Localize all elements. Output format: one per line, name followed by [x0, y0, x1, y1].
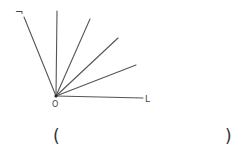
ray-4 — [56, 38, 118, 96]
answer-open-paren: ( — [53, 128, 60, 145]
answer-close-paren: ) — [225, 128, 232, 145]
angle-rays-diagram: ¬ L O — [0, 0, 244, 157]
vertex-label: O — [52, 100, 58, 109]
ray-1 — [24, 17, 56, 96]
vertex-point — [54, 94, 57, 97]
right-ray-label: L — [145, 94, 150, 104]
left-ray-label: ¬ — [15, 7, 23, 18]
ray-2 — [56, 11, 57, 96]
ray-6 — [56, 96, 143, 98]
